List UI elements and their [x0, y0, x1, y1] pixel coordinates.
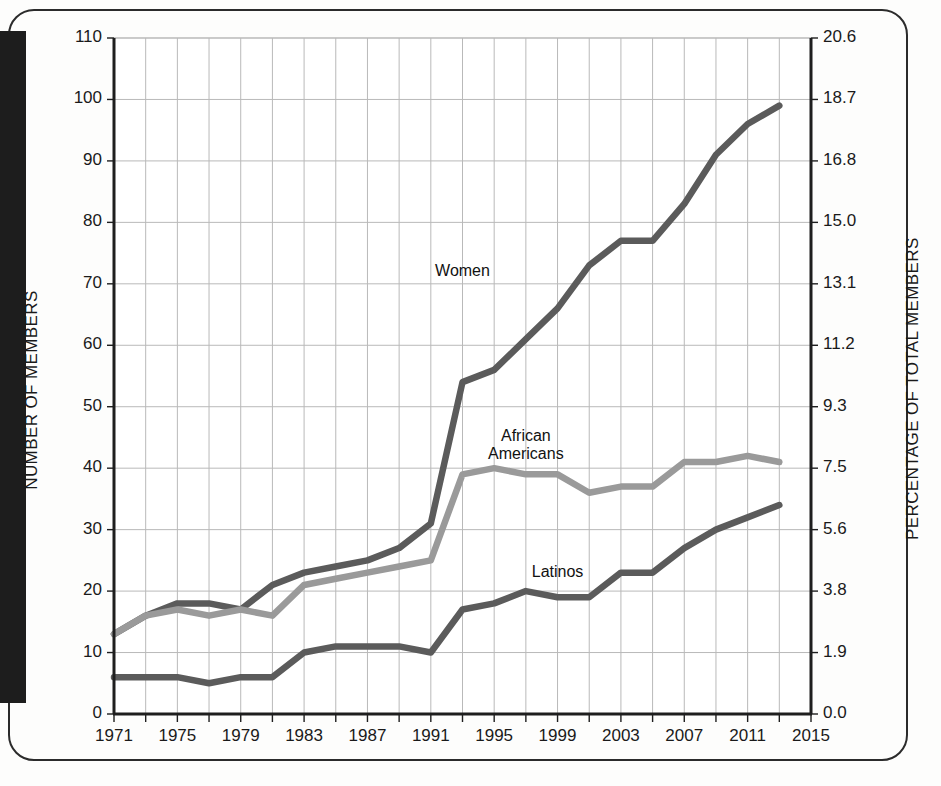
y-tick-label-right: 15.0	[823, 211, 871, 231]
x-tick-label: 2007	[654, 726, 714, 746]
x-tick-label: 1991	[401, 726, 461, 746]
y-tick-label-right: 9.3	[823, 396, 871, 416]
y-tick-label-left: 20	[58, 580, 102, 600]
series-label-african-americans: AfricanAmericans	[466, 427, 586, 463]
y-tick-label-right: 3.8	[823, 580, 871, 600]
y-tick-label-left: 90	[58, 150, 102, 170]
x-tick-label: 2011	[718, 726, 778, 746]
x-tick-label: 1999	[528, 726, 588, 746]
x-tick-label: 2003	[591, 726, 651, 746]
y-tick-label-left: 0	[58, 703, 102, 723]
y-tick-label-right: 16.8	[823, 150, 871, 170]
y-tick-label-right: 18.7	[823, 88, 871, 108]
y-tick-label-right: 7.5	[823, 457, 871, 477]
x-tick-label: 2015	[781, 726, 841, 746]
y-tick-label-left: 110	[58, 27, 102, 47]
y-axis-title-left: NUMBER OF MEMBERS	[22, 240, 42, 540]
y-tick-label-right: 1.9	[823, 642, 871, 662]
y-tick-label-left: 80	[58, 211, 102, 231]
series-label-latinos: Latinos	[498, 563, 618, 581]
y-tick-label-right: 5.6	[823, 519, 871, 539]
x-tick-label: 1971	[84, 726, 144, 746]
chart-page: NUMBER OF MEMBERS PERCENTAGE OF TOTAL ME…	[0, 0, 941, 786]
y-tick-label-left: 50	[58, 396, 102, 416]
plot-canvas	[0, 0, 941, 786]
y-tick-label-left: 100	[58, 88, 102, 108]
y-tick-label-left: 40	[58, 457, 102, 477]
x-tick-label: 1983	[274, 726, 334, 746]
y-tick-label-left: 10	[58, 642, 102, 662]
y-tick-label-left: 70	[58, 273, 102, 293]
y-tick-label-right: 11.2	[823, 334, 871, 354]
y-axis-title-right: PERCENTAGE OF TOTAL MEMBERS	[903, 240, 923, 540]
x-tick-label: 1975	[147, 726, 207, 746]
x-tick-label: 1987	[337, 726, 397, 746]
y-tick-label-left: 60	[58, 334, 102, 354]
x-tick-label: 1979	[211, 726, 271, 746]
y-tick-label-right: 13.1	[823, 273, 871, 293]
x-tick-label: 1995	[464, 726, 524, 746]
line-chart: NUMBER OF MEMBERS PERCENTAGE OF TOTAL ME…	[0, 0, 941, 786]
y-tick-label-right: 0.0	[823, 703, 871, 723]
y-tick-label-left: 30	[58, 519, 102, 539]
y-tick-label-right: 20.6	[823, 27, 871, 47]
series-label-women: Women	[403, 262, 523, 280]
